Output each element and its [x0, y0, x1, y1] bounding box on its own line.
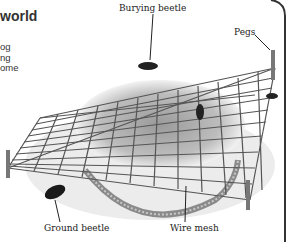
peg-left: [6, 150, 10, 178]
panel-heading: world: [0, 8, 37, 24]
label-burying-beetle: Burying beetle: [119, 3, 186, 13]
intro-line: ome: [0, 63, 18, 74]
intro-line: og: [0, 42, 18, 53]
peg-right-top: [271, 50, 275, 80]
panel-border: [271, 0, 285, 242]
beetle-on-carcass: [196, 104, 204, 120]
panel-intro-text: og ng ome: [0, 42, 18, 74]
beetle-right: [266, 93, 278, 99]
peg-right-bottom: [246, 180, 250, 210]
label-pegs: Pegs: [234, 27, 255, 37]
burying-beetle-pointer: [150, 14, 153, 60]
burying-beetle: [138, 62, 158, 70]
ground-beetle-pointer: [55, 200, 60, 222]
pegs-pointer: [255, 35, 270, 50]
label-ground-beetle: Ground beetle: [44, 223, 109, 233]
label-wire-mesh: Wire mesh: [170, 223, 219, 233]
